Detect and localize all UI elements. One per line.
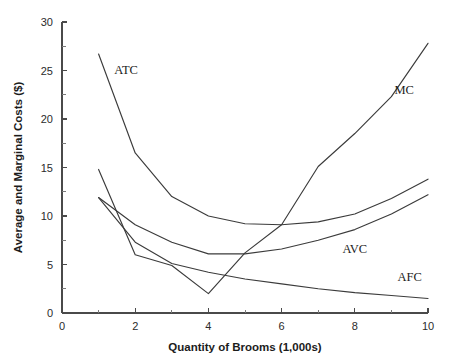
curve-atc: [99, 54, 428, 225]
chart-canvas: 0246810051015202530 ATCMCAVCAFC Quantity…: [0, 0, 474, 364]
x-tick-label: 6: [279, 320, 285, 332]
y-tick-label: 0: [47, 307, 53, 319]
x-tick-label: 0: [59, 320, 65, 332]
curve-layer: [99, 43, 428, 298]
x-tick-label: 8: [352, 320, 358, 332]
y-tick-label: 20: [41, 113, 53, 125]
cost-curves-chart: 0246810051015202530 ATCMCAVCAFC Quantity…: [0, 0, 474, 364]
y-tick-label: 5: [47, 259, 53, 271]
x-tick-label: 4: [205, 320, 211, 332]
y-tick-label: 10: [41, 210, 53, 222]
y-tick-label: 30: [41, 16, 53, 28]
x-axis-title: Quantity of Brooms (1,000s): [168, 341, 322, 353]
series-label-afc: AFC: [398, 270, 422, 284]
y-axis-title: Average and Marginal Costs ($): [12, 82, 24, 254]
x-tick-label: 2: [132, 320, 138, 332]
y-tick-label: 15: [41, 162, 53, 174]
series-label-mc: MC: [394, 83, 413, 97]
x-tick-label: 10: [422, 320, 434, 332]
tick-label-layer: 0246810051015202530: [41, 16, 434, 332]
series-label-atc: ATC: [114, 63, 138, 77]
series-label-avc: AVC: [342, 242, 367, 256]
curve-afc: [99, 198, 428, 299]
y-tick-label: 25: [41, 65, 53, 77]
